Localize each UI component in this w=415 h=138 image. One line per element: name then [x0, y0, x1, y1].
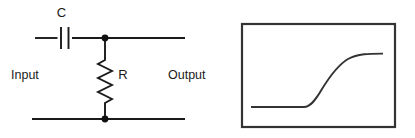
resistor-label: R	[118, 67, 127, 82]
capacitor-label: C	[57, 5, 66, 20]
rc-filter-figure: C R Input Output	[0, 0, 415, 138]
step-response-curve	[251, 54, 383, 107]
input-label: Input	[11, 68, 39, 82]
resistor-symbol	[98, 56, 112, 119]
plot-frame	[242, 24, 395, 127]
bottom-junction-dot	[102, 116, 109, 123]
response-plot	[242, 24, 395, 127]
figure-root: C R Input Output	[0, 0, 415, 138]
output-label: Output	[168, 68, 206, 82]
top-junction-dot	[102, 35, 109, 42]
circuit-diagram: C R Input Output	[11, 5, 206, 122]
capacitor-symbol	[61, 27, 69, 49]
